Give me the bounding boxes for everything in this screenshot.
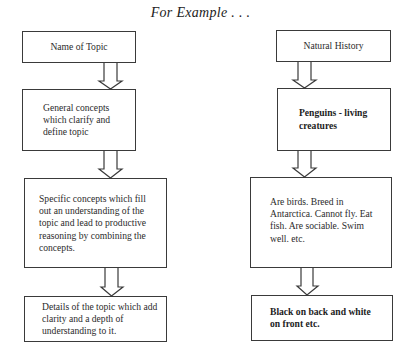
down-arrow-icon (293, 151, 316, 178)
left-box-details-text: Details of the topic which add clarity a… (42, 301, 158, 338)
right-box-penguins: Penguins - living creatures (277, 88, 391, 151)
down-arrow-icon (101, 268, 123, 297)
left-box-specific-concepts-text: Specific concepts which fill out an unde… (39, 193, 156, 254)
right-box-penguin-facts: Are birds. Breed in Antarctica. Cannot f… (250, 177, 392, 268)
diagram-title: For Example . . . (0, 5, 401, 21)
right-box-natural-history-text: Natural History (304, 40, 364, 52)
left-box-general-concepts-text: General concepts which clarify and defin… (43, 102, 121, 139)
right-box-coloring-text: Black on back and white on front etc. (270, 306, 372, 330)
right-box-penguins-text: Penguins - living creatures (299, 107, 378, 131)
down-arrow-icon (99, 63, 122, 90)
right-box-coloring: Black on back and white on front etc. (251, 295, 393, 341)
left-box-general-concepts: General concepts which clarify and defin… (22, 89, 136, 151)
right-box-natural-history: Natural History (276, 30, 391, 62)
left-box-specific-concepts: Specific concepts which fill out an unde… (24, 178, 167, 268)
left-box-details: Details of the topic which add clarity a… (24, 296, 167, 342)
left-box-topic-name: Name of Topic (22, 31, 136, 63)
down-arrow-icon (297, 268, 318, 296)
down-arrow-icon (99, 151, 122, 179)
left-box-topic-name-text: Name of Topic (50, 41, 107, 53)
down-arrow-icon (293, 62, 316, 89)
right-box-penguin-facts-text: Are birds. Breed in Antarctica. Cannot f… (270, 196, 377, 245)
